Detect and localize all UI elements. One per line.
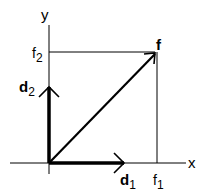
y-axis-label: y <box>41 6 49 23</box>
vector-decomposition-diagram: y x f2 f1 f d2 d1 <box>0 0 207 196</box>
vector-d1-label: d1 <box>120 171 136 192</box>
vector-d2-label: d2 <box>19 78 35 99</box>
f1-label: f1 <box>153 172 164 192</box>
f2-label: f2 <box>32 45 43 65</box>
vector-f-label: f <box>156 36 162 53</box>
x-axis-label: x <box>188 154 196 171</box>
vector-f <box>50 54 155 162</box>
